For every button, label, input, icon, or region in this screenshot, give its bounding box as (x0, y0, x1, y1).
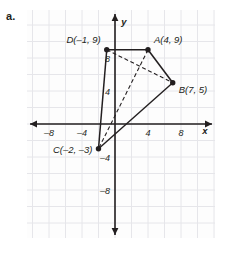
x-tick-label: 8 (178, 128, 183, 138)
x-tick-label: –4 (76, 128, 87, 138)
vertex-dot-d (104, 47, 109, 52)
coordinate-plane-figure: x y –8–448 –8–448 A(4, 9)B(7, 5)C(–2, –3… (0, 0, 232, 256)
vertex-label-a: A(4, 9) (153, 34, 183, 45)
x-tick-label: –8 (43, 128, 54, 138)
y-tick-label: –4 (99, 153, 110, 163)
vertex-label-b: B(7, 5) (179, 84, 208, 95)
vertex-label-c: C(–2, –3) (53, 144, 93, 155)
x-tick-label: 4 (145, 128, 150, 138)
vertex-dot-b (170, 80, 175, 85)
y-axis-label: y (120, 16, 127, 27)
y-tick-label: –8 (99, 186, 110, 196)
y-tick-label: 4 (105, 87, 110, 97)
vertex-label-d: D(–1, 9) (66, 34, 100, 45)
vertex-dot-a (145, 47, 150, 52)
vertex-dot-c (96, 146, 101, 151)
x-axis-label: x (201, 125, 208, 136)
